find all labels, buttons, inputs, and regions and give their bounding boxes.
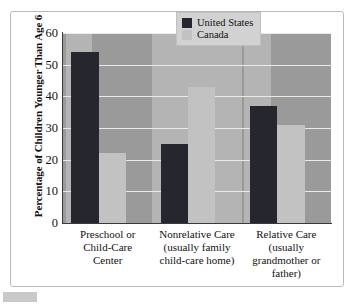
x-category-label-line: Nonrelative Care	[146, 228, 247, 241]
legend-swatch-icon	[182, 18, 192, 28]
bar-ca-1	[188, 87, 215, 223]
y-tick-label: 10	[27, 185, 58, 198]
x-category-label-line: father)	[236, 267, 337, 280]
y-tick-label: 50	[27, 59, 58, 72]
y-tick-label: 20	[27, 154, 58, 167]
x-category-label-2: Relative Care(usuallygrandmother orfathe…	[236, 228, 337, 280]
bar-ca-2	[277, 125, 304, 223]
x-axis-line	[62, 223, 332, 224]
legend-item-us: United States	[182, 18, 253, 29]
x-category-label-1: Nonrelative Care(usually familychild-car…	[146, 228, 247, 267]
legend-label: United States	[197, 18, 253, 29]
gridline	[63, 65, 331, 66]
bar-ca-0	[99, 153, 126, 223]
x-category-label-line: Child-Care	[57, 241, 158, 254]
x-category-label-line: (usually family	[146, 241, 247, 254]
bar-us-0	[71, 52, 98, 223]
bar-us-2	[250, 106, 277, 223]
x-category-label-line: Preschool or	[57, 228, 158, 241]
y-tick-label: 30	[27, 122, 58, 135]
y-tick-label: 40	[27, 90, 58, 103]
x-category-label-0: Preschool orChild-CareCenter	[57, 228, 158, 267]
y-tick-label: 60	[27, 27, 58, 40]
bar-us-1	[161, 144, 188, 223]
legend-label: Canada	[197, 30, 229, 41]
legend-item-ca: Canada	[182, 30, 253, 41]
y-tick-label: 0	[27, 217, 58, 230]
x-category-label-line: child-care home)	[146, 254, 247, 267]
legend-swatch-icon	[182, 30, 192, 40]
plot-area	[63, 33, 331, 223]
x-category-label-line: grandmother or	[236, 254, 337, 267]
x-category-label-line: Relative Care	[236, 228, 337, 241]
x-category-label-line: (usually	[236, 241, 337, 254]
x-category-label-line: Center	[57, 254, 158, 267]
chart-legend: United StatesCanada	[176, 12, 261, 46]
figure-container: Percentage of Children Younger Than Age …	[0, 0, 356, 304]
